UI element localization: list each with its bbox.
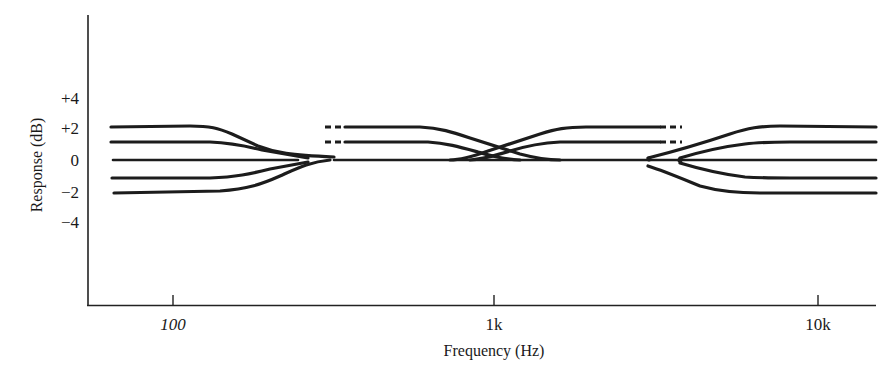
x-axis-title: Frequency (Hz) <box>444 342 545 360</box>
low-band-curves <box>111 126 334 193</box>
high-curve-minus1 <box>680 163 876 178</box>
y-axis-title: Response (dB) <box>28 118 46 213</box>
high-junction-left <box>647 157 652 162</box>
x-tick-label-10k: 10k <box>805 315 831 334</box>
y-tick-labels: +4 +2 0 −2 −4 <box>61 89 80 232</box>
x-tick-label-100: 100 <box>160 315 186 334</box>
x-tick-labels: 100 1k 10k <box>160 315 831 334</box>
high-band-curves <box>647 126 876 193</box>
y-tick-label-zero: 0 <box>71 151 80 170</box>
y-tick-label-minus2: −2 <box>61 183 79 202</box>
y-tick-label-plus4: +4 <box>61 89 80 108</box>
frequency-response-chart: +4 +2 0 −2 −4 100 1k 10k Response (dB) F… <box>0 0 892 371</box>
y-tick-label-minus4: −4 <box>61 213 80 232</box>
mid-band-curves <box>325 127 682 160</box>
high-junction-right <box>677 157 682 162</box>
high-curve-plus1 <box>680 142 876 158</box>
y-tick-label-plus2: +2 <box>61 119 79 138</box>
x-tick-label-1k: 1k <box>486 315 504 334</box>
low-curve-plus1 <box>111 142 308 158</box>
